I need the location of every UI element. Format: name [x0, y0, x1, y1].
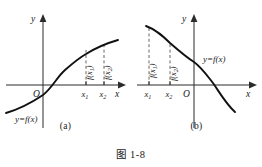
tick-label-x2-b: x2 [165, 89, 173, 100]
value-label-fx1-b: f(x1) [148, 63, 158, 78]
value-label-fx1-a: f(x1) [85, 65, 95, 80]
y-axis-arrowhead-b [191, 14, 198, 22]
curve-label-b: y=f(x) [202, 54, 226, 64]
x-axis-label-a: x [114, 89, 120, 99]
y-axis-arrowhead-a [40, 14, 47, 22]
tick-label-x2-a-sub: 2 [103, 93, 106, 100]
value-label-fx1-a-base: f(x [85, 71, 94, 80]
tick-label-x2-a: x2 [99, 89, 107, 100]
panel-b-plot: y x O x1 x2 f(x1) f(x2) y=f(x) [131, 0, 262, 140]
origin-label-b: O [183, 89, 190, 99]
panel-caption-a: (a) [0, 121, 131, 131]
y-axis-label-a: y [30, 14, 36, 24]
tick-label-x2-b-sub: 2 [169, 93, 172, 100]
value-label-fx2-a-close: ) [103, 65, 112, 69]
value-label-fx1-b-close: ) [148, 63, 157, 67]
panel-caption-b: (b) [131, 121, 262, 131]
y-axis-label-b: y [181, 14, 187, 24]
curve-a [6, 40, 118, 113]
value-label-fx1-b-base: f(x [148, 69, 157, 78]
value-label-fx2-a: f(x2) [103, 65, 113, 80]
curve-b [146, 26, 235, 112]
origin-label-a: O [33, 89, 40, 99]
x-axis-arrowhead-a [118, 82, 126, 89]
value-label-fx2-b-base: f(x [169, 72, 178, 81]
value-label-fx2-a-base: f(x [103, 71, 112, 80]
x-axis-label-b: x [245, 89, 251, 99]
value-label-fx2-b-close: ) [169, 66, 178, 70]
value-label-fx1-a-close: ) [85, 65, 94, 69]
x-axis-arrowhead-b [249, 82, 257, 89]
tick-label-x1-a-sub: 1 [85, 93, 88, 100]
figure-caption: 图 1-8 [0, 146, 262, 161]
value-label-fx2-b: f(x2) [169, 66, 179, 81]
panel-b: y x O x1 x2 f(x1) f(x2) y=f(x) [131, 0, 262, 140]
tick-label-x1-b: x1 [144, 89, 152, 100]
tick-label-x1-b-sub: 1 [148, 93, 151, 100]
panel-a: y x O x1 x2 f(x1) f(x2) y=f(x) [0, 0, 131, 140]
panel-a-plot: y x O x1 x2 f(x1) f(x2) y=f(x) [0, 0, 131, 140]
tick-label-x1-a: x1 [81, 89, 89, 100]
figure-container: y x O x1 x2 f(x1) f(x2) y=f(x) [0, 0, 262, 167]
